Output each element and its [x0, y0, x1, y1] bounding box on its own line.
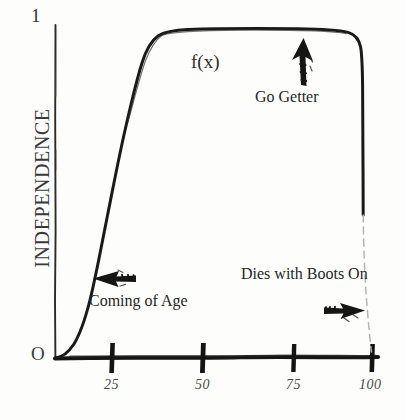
- y-axis-min-label: O: [31, 344, 45, 363]
- x-tick-label-25: 25: [104, 378, 119, 392]
- x-tick-100: [372, 344, 373, 372]
- x-tick-75: [293, 344, 294, 372]
- y-axis-line: [55, 25, 56, 357]
- annotation-dies-with-boots-on: Dies with Boots On: [241, 266, 368, 282]
- arrow-up-icon: [292, 38, 313, 86]
- x-tick-25: [112, 343, 113, 373]
- curve-fx-texture: [128, 30, 346, 122]
- curve-label-fx: f(x): [191, 52, 219, 71]
- annotation-go-getter: Go Getter: [255, 89, 319, 105]
- x-tick-50: [202, 343, 203, 373]
- y-axis-max-label: 1: [31, 6, 41, 25]
- sigmoid-independence-chart: INDEPENDENCE 1 O 25 50 75 100 f(x) Go Ge…: [0, 0, 406, 420]
- y-axis-title: INDEPENDENCE: [32, 83, 52, 293]
- arrow-left-icon: [93, 270, 136, 287]
- annotation-coming-of-age: Coming of Age: [89, 293, 188, 309]
- x-tick-label-100: 100: [359, 378, 382, 392]
- x-tick-label-75: 75: [286, 378, 301, 392]
- x-tick-label-50: 50: [195, 378, 210, 392]
- x-axis-line: [55, 357, 378, 359]
- arrow-right-icon: [324, 303, 365, 322]
- curve-fx-fading-tail: [363, 215, 371, 352]
